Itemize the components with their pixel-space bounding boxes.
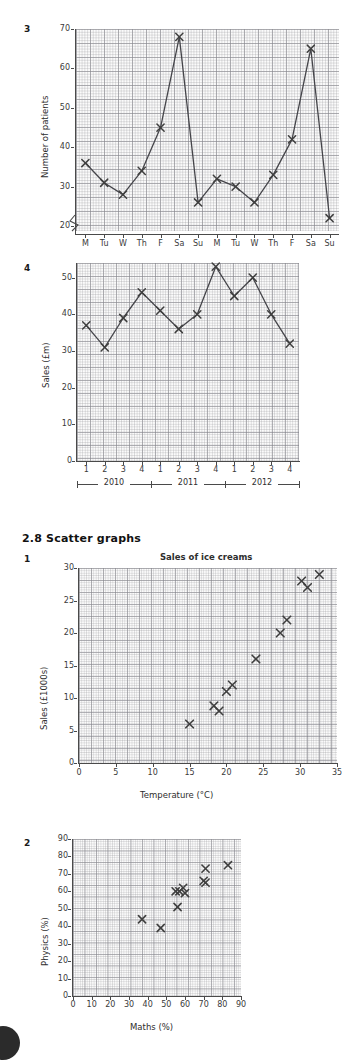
fig5-x-axis <box>78 763 338 764</box>
axis-tick <box>72 461 75 462</box>
fig5-x-axis-title: Temperature (°C) <box>140 790 213 800</box>
fig4-y-tick-label: 40 <box>50 309 72 318</box>
fig5-y-axis <box>78 568 79 764</box>
fig3-plot-area <box>76 29 339 231</box>
axis-tick <box>185 997 186 1000</box>
axis-tick <box>68 944 71 945</box>
axis-tick <box>68 839 71 840</box>
axis-tick <box>254 235 255 238</box>
axis-tick <box>68 996 71 997</box>
fig4-x-tick-label: 3 <box>188 465 206 474</box>
fig5-x-tick-label: 10 <box>143 768 163 777</box>
axis-tick <box>166 997 167 1000</box>
fig6-x-tick-label: 90 <box>232 1000 250 1009</box>
year-label: 2012 <box>246 478 278 487</box>
fig4-x-tick-label: 2 <box>96 465 114 474</box>
axis-tick <box>216 462 217 465</box>
year-bracket-cap <box>77 481 78 488</box>
axis-tick <box>68 909 71 910</box>
fig3-y-tick-label: 60 <box>48 63 70 72</box>
fig6-y-tick-label: 20 <box>46 956 68 965</box>
axis-tick <box>72 388 75 389</box>
axis-tick <box>153 764 154 767</box>
axis-tick <box>179 235 180 238</box>
fig6-x-axis <box>72 996 242 997</box>
fig4-x-tick-label: 4 <box>207 465 225 474</box>
axis-tick <box>73 997 74 1000</box>
fig3-axis-break-icon <box>68 214 82 232</box>
axis-tick <box>290 462 291 465</box>
fig4-plot-area <box>77 263 299 461</box>
figure-3: 3 Number of patients 203040506070MTuWThF… <box>0 0 362 250</box>
axis-tick <box>234 462 235 465</box>
figure-6: 2 Physics (%) Maths (%) 0102030405060708… <box>0 826 362 1044</box>
fig3-grid <box>76 29 339 231</box>
fig6-x-tick-label: 30 <box>120 1000 138 1009</box>
axis-tick <box>160 462 161 465</box>
fig5-x-tick-label: 20 <box>216 768 236 777</box>
fig5-x-tick-label: 0 <box>69 768 89 777</box>
fig6-y-tick-label: 80 <box>46 851 68 860</box>
axis-tick <box>217 235 218 238</box>
fig5-y-tick-label: 30 <box>52 563 74 572</box>
axis-tick <box>92 997 93 1000</box>
axis-tick <box>74 633 77 634</box>
axis-tick <box>271 462 272 465</box>
question-number-1: 1 <box>24 554 30 564</box>
axis-tick <box>197 462 198 465</box>
axis-tick <box>86 462 87 465</box>
axis-tick <box>72 351 75 352</box>
fig5-x-tick-label: 35 <box>327 768 347 777</box>
axis-tick <box>236 235 237 238</box>
fig6-x-tick-label: 80 <box>213 1000 231 1009</box>
axis-tick <box>330 235 331 238</box>
axis-tick <box>337 764 338 767</box>
axis-tick <box>68 874 71 875</box>
year-label: 2010 <box>98 478 130 487</box>
fig4-y-axis <box>76 263 77 462</box>
year-bracket-cap <box>151 481 152 488</box>
year-label: 2011 <box>172 478 204 487</box>
fig6-y-tick-label: 50 <box>46 904 68 913</box>
axis-tick <box>72 424 75 425</box>
axis-tick <box>123 235 124 238</box>
axis-tick <box>74 763 77 764</box>
fig3-y-tick-label: 50 <box>48 103 70 112</box>
axis-tick <box>253 462 254 465</box>
fig6-x-tick-label: 20 <box>101 1000 119 1009</box>
figure-4: 4 Sales (£m) 201020112012 01020304050123… <box>0 250 362 510</box>
fig6-y-tick-label: 30 <box>46 939 68 948</box>
fig5-y-tick-label: 0 <box>52 758 74 767</box>
axis-tick <box>74 731 77 732</box>
fig5-x-tick-label: 30 <box>290 768 310 777</box>
fig4-y-tick-label: 20 <box>50 383 72 392</box>
axis-tick <box>71 68 74 69</box>
fig6-y-tick-label: 10 <box>46 974 68 983</box>
fig5-x-tick-label: 5 <box>106 768 126 777</box>
axis-tick <box>179 462 180 465</box>
fig4-grid <box>77 263 299 461</box>
fig6-plot-area <box>73 839 241 996</box>
axis-tick <box>222 997 223 1000</box>
axis-tick <box>74 666 77 667</box>
fig3-y-tick-label: 30 <box>48 182 70 191</box>
axis-tick <box>71 226 74 227</box>
axis-tick <box>68 891 71 892</box>
fig3-y-tick-label: 20 <box>48 221 70 230</box>
axis-tick <box>71 29 74 30</box>
axis-tick <box>142 462 143 465</box>
axis-tick <box>105 462 106 465</box>
axis-tick <box>74 601 77 602</box>
fig6-x-tick-label: 0 <box>64 1000 82 1009</box>
fig4-x-tick-label: 4 <box>133 465 151 474</box>
axis-tick <box>71 147 74 148</box>
fig4-y-tick-label: 10 <box>50 419 72 428</box>
axis-tick <box>123 462 124 465</box>
question-number-2: 2 <box>24 838 30 848</box>
axis-tick <box>273 235 274 238</box>
axis-tick <box>72 278 75 279</box>
fig4-y-tick-label: 30 <box>50 346 72 355</box>
fig4-x-tick-label: 1 <box>151 465 169 474</box>
fig6-x-axis-title: Maths (%) <box>130 1022 173 1032</box>
